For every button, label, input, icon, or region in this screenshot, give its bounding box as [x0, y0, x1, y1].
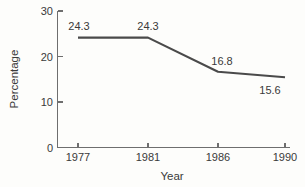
- x-tick-label-1990: 1990: [273, 151, 297, 163]
- series-line-percentage: [78, 38, 285, 78]
- y-tick-label-10: 10: [41, 96, 53, 108]
- x-tick-label-1977: 1977: [66, 151, 90, 163]
- y-tick-label-0: 0: [47, 142, 53, 154]
- point-label-1981: 24.3: [137, 20, 158, 32]
- x-tick-label-1981: 1981: [136, 151, 160, 163]
- y-tick-label-30: 30: [41, 5, 53, 17]
- point-label-1986: 16.8: [211, 55, 232, 67]
- point-label-1977: 24.3: [68, 20, 89, 32]
- line-chart: 0 10 20 30 1977 1981 1986 1990 24.3 24.3…: [0, 0, 305, 187]
- chart-page: 0 10 20 30 1977 1981 1986 1990 24.3 24.3…: [0, 0, 305, 187]
- x-tick-label-1986: 1986: [206, 151, 230, 163]
- y-tick-label-20: 20: [41, 51, 53, 63]
- x-axis-title: Year: [160, 170, 183, 182]
- y-axis-title: Percentage: [8, 50, 20, 109]
- point-label-1990: 15.6: [259, 84, 280, 96]
